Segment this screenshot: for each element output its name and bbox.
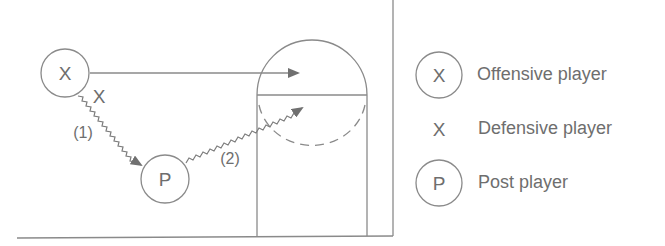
legend: X X P (416, 52, 462, 206)
free-throw-circle-bottom-dashed (259, 105, 365, 145)
legend-defensive-icon: X (433, 119, 446, 140)
legend-post-label: Post player (478, 172, 568, 193)
defensive-player: X (93, 86, 106, 107)
dribble-path-2 (186, 108, 302, 163)
svg-text:P: P (433, 173, 446, 194)
legend-post-icon: P (416, 160, 462, 206)
post-player-symbol: P (159, 169, 172, 190)
free-throw-circle-top (257, 40, 367, 95)
legend-defensive-label: Defensive player (478, 118, 612, 139)
offensive-player: X (41, 49, 89, 97)
legend-offensive-icon: X (416, 52, 462, 98)
svg-text:X: X (433, 65, 446, 86)
offensive-player-symbol: X (59, 63, 72, 84)
path-1-label: (1) (73, 124, 93, 141)
post-player: P (141, 155, 189, 203)
baseline (17, 236, 393, 238)
path-2-label: (2) (220, 150, 240, 167)
legend-offensive-label: Offensive player (477, 64, 607, 85)
court (17, 0, 393, 238)
